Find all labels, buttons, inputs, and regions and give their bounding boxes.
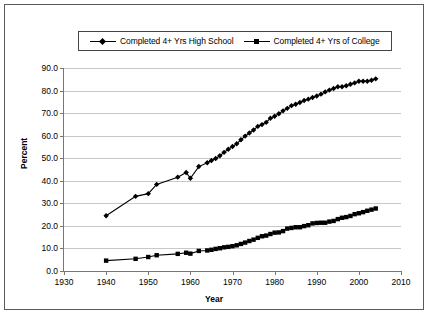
data-point-square xyxy=(251,237,255,241)
data-point-square xyxy=(260,234,264,238)
x-tick-mark xyxy=(317,271,318,275)
data-point-square xyxy=(268,232,272,236)
y-tick-label: 10.0 xyxy=(41,243,58,253)
data-point-square xyxy=(365,209,369,213)
data-point-square xyxy=(133,257,137,261)
data-point-square xyxy=(256,236,260,240)
series-line xyxy=(106,79,376,216)
x-tick-mark xyxy=(64,271,65,275)
chart-legend: Completed 4+ Yrs High School Completed 4… xyxy=(78,31,392,51)
data-point-square xyxy=(285,226,289,230)
data-point-square xyxy=(361,210,365,214)
data-point-diamond xyxy=(369,77,374,82)
data-point-diamond xyxy=(285,106,290,111)
x-tick-label: 1970 xyxy=(223,277,242,287)
x-tick-label: 1940 xyxy=(97,277,116,287)
x-axis-label: Year xyxy=(5,294,423,304)
legend-entry-high-school: Completed 4+ Yrs High School xyxy=(85,36,239,46)
data-point-square xyxy=(348,214,352,218)
y-tick-label: 70.0 xyxy=(41,108,58,118)
data-point-square xyxy=(327,219,331,223)
data-point-square xyxy=(247,239,251,243)
data-point-square xyxy=(176,252,180,256)
y-tick-label: 90.0 xyxy=(41,63,58,73)
data-point-square xyxy=(298,225,302,229)
data-point-square xyxy=(289,226,293,230)
legend-entry-college: Completed 4+ Yrs of College xyxy=(239,36,385,46)
x-tick-mark xyxy=(106,271,107,275)
data-point-square xyxy=(213,247,217,251)
data-point-square xyxy=(239,242,243,246)
data-point-square xyxy=(226,245,230,249)
x-tick-label: 1930 xyxy=(55,277,74,287)
y-tick-label: 80.0 xyxy=(41,86,58,96)
x-tick-label: 2000 xyxy=(349,277,368,287)
data-point-square xyxy=(272,230,276,234)
data-point-square xyxy=(369,207,373,211)
x-tick-label: 1980 xyxy=(265,277,284,287)
legend-label-high-school: Completed 4+ Yrs High School xyxy=(120,36,234,46)
data-point-square xyxy=(302,224,306,228)
data-point-square xyxy=(184,251,188,255)
x-tick-label: 1990 xyxy=(307,277,326,287)
x-tick-mark xyxy=(190,271,191,275)
square-marker-icon xyxy=(244,37,270,46)
data-point-square xyxy=(230,244,234,248)
y-tick-label: 20.0 xyxy=(41,221,58,231)
data-point-square xyxy=(331,219,335,223)
data-point-square xyxy=(357,211,361,215)
data-point-square xyxy=(188,251,192,255)
x-tick-mark xyxy=(359,271,360,275)
data-point-diamond xyxy=(365,79,370,84)
plot-area: 0.010.020.030.040.050.060.070.080.090.01… xyxy=(63,68,401,272)
data-point-diamond xyxy=(289,103,294,108)
x-tick-mark xyxy=(275,271,276,275)
data-point-square xyxy=(243,240,247,244)
data-point-diamond xyxy=(339,84,344,89)
data-point-square xyxy=(344,215,348,219)
series-line xyxy=(106,209,376,261)
x-tick-label: 1950 xyxy=(139,277,158,287)
data-point-square xyxy=(222,245,226,249)
y-tick-label: 50.0 xyxy=(41,153,58,163)
y-tick-label: 60.0 xyxy=(41,131,58,141)
y-tick-label: 0.0 xyxy=(46,266,58,276)
data-point-square xyxy=(218,246,222,250)
data-point-square xyxy=(277,230,281,234)
legend-label-college: Completed 4+ Yrs of College xyxy=(274,36,380,46)
y-tick-label: 30.0 xyxy=(41,198,58,208)
data-point-square xyxy=(146,255,150,259)
data-point-square xyxy=(352,212,356,216)
data-point-square xyxy=(374,206,378,210)
data-point-square xyxy=(340,216,344,220)
data-point-diamond xyxy=(373,76,378,81)
x-tick-label: 2010 xyxy=(392,277,411,287)
data-point-square xyxy=(264,233,268,237)
data-point-square xyxy=(197,249,201,253)
series-college xyxy=(104,206,378,263)
data-point-diamond xyxy=(230,144,235,149)
data-point-square xyxy=(319,221,323,225)
series-high-school xyxy=(103,76,378,218)
data-point-square xyxy=(205,248,209,252)
data-point-square xyxy=(306,223,310,227)
data-point-square xyxy=(104,258,108,262)
data-point-square xyxy=(154,253,158,257)
data-series-layer xyxy=(64,68,401,271)
x-tick-mark xyxy=(401,271,402,275)
data-point-square xyxy=(281,229,285,233)
data-point-diamond xyxy=(175,174,180,179)
y-axis-label: Percent xyxy=(19,138,29,169)
x-tick-mark xyxy=(148,271,149,275)
data-point-square xyxy=(293,225,297,229)
x-tick-label: 1960 xyxy=(181,277,200,287)
data-point-square xyxy=(310,221,314,225)
x-tick-mark xyxy=(233,271,234,275)
y-tick-label: 40.0 xyxy=(41,176,58,186)
data-point-square xyxy=(323,221,327,225)
data-point-square xyxy=(315,221,319,225)
diamond-marker-icon xyxy=(90,37,116,46)
chart-frame: Completed 4+ Yrs High School Completed 4… xyxy=(4,4,424,310)
data-point-square xyxy=(235,243,239,247)
data-point-square xyxy=(336,217,340,221)
